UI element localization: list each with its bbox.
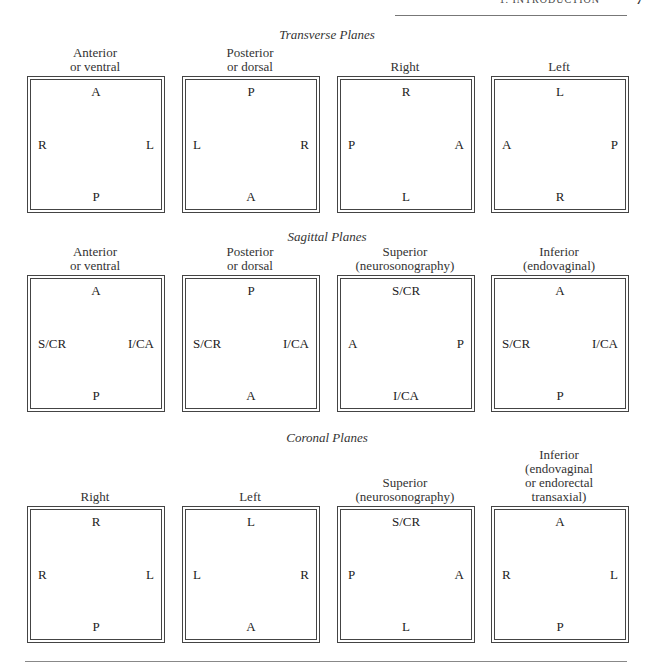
bottom-label: P	[31, 619, 161, 635]
top-label: A	[31, 283, 161, 299]
orientation-panel: P S/CR I/CA A	[185, 278, 317, 409]
panel-caption: Right	[15, 490, 175, 504]
bottom-label: P	[495, 619, 625, 635]
bottom-label: A	[186, 619, 316, 635]
left-label: S/CR	[193, 336, 221, 352]
bottom-label: I/CA	[341, 388, 471, 404]
caption-line: Posterior	[170, 46, 330, 60]
page-number: 7	[636, 0, 643, 8]
orientation-panel: S/CR P A L	[340, 509, 472, 640]
orientation-panel: R R L P	[30, 509, 162, 640]
bottom-label: A	[186, 388, 316, 404]
top-label: A	[495, 514, 625, 530]
panel-caption: Posterior or dorsal	[170, 46, 330, 74]
caption-line: (endovaginal)	[479, 259, 639, 273]
caption-line: transaxial)	[479, 490, 639, 504]
orientation-panel: A R L P	[494, 509, 626, 640]
caption-line: or dorsal	[170, 60, 330, 74]
panel-caption: Left	[170, 490, 330, 504]
right-label: L	[146, 137, 154, 153]
orientation-panel: A S/CR I/CA P	[494, 278, 626, 409]
top-label: R	[31, 514, 161, 530]
top-label: R	[341, 84, 471, 100]
section-title: Coronal Planes	[0, 430, 654, 446]
left-label: A	[502, 137, 511, 153]
orientation-panel: L L R A	[185, 509, 317, 640]
caption-line: Posterior	[170, 245, 330, 259]
right-label: L	[610, 567, 618, 583]
caption-line: Superior	[325, 476, 485, 490]
top-label: A	[495, 283, 625, 299]
caption-line: Left	[479, 60, 639, 74]
footer-rule	[25, 661, 627, 662]
top-label: P	[186, 84, 316, 100]
caption-line: Inferior	[479, 245, 639, 259]
caption-line: Right	[325, 60, 485, 74]
panel-caption: Anterior or ventral	[15, 245, 175, 273]
left-label: R	[38, 137, 47, 153]
orientation-panel: R P A L	[340, 79, 472, 210]
panel-caption: Left	[479, 60, 639, 74]
orientation-panel: A R L P	[30, 79, 162, 210]
panel-caption: Inferior (endovaginal)	[479, 245, 639, 273]
right-label: R	[300, 567, 309, 583]
left-label: A	[348, 336, 357, 352]
caption-line: or dorsal	[170, 259, 330, 273]
caption-line: or endorectal	[479, 476, 639, 490]
panel-caption: Inferior (endovaginal or endorectal tran…	[479, 448, 639, 504]
left-label: R	[502, 567, 511, 583]
caption-line: Anterior	[15, 46, 175, 60]
header-rule	[395, 15, 627, 16]
top-label: L	[495, 84, 625, 100]
right-label: A	[455, 567, 464, 583]
top-label: L	[186, 514, 316, 530]
right-label: I/CA	[128, 336, 154, 352]
bottom-label: L	[341, 619, 471, 635]
panel-caption: Superior (neurosonography)	[325, 245, 485, 273]
orientation-panel: P L R A	[185, 79, 317, 210]
orientation-panel: S/CR A P I/CA	[340, 278, 472, 409]
caption-line: Right	[15, 490, 175, 504]
right-label: L	[146, 567, 154, 583]
right-label: I/CA	[283, 336, 309, 352]
caption-line: or ventral	[15, 259, 175, 273]
panel-caption: Right	[325, 60, 485, 74]
caption-line: (neurosonography)	[325, 259, 485, 273]
caption-line: Superior	[325, 245, 485, 259]
top-label: S/CR	[341, 514, 471, 530]
right-label: P	[457, 336, 464, 352]
panel-caption: Superior (neurosonography)	[325, 476, 485, 504]
caption-line: (endovaginal	[479, 462, 639, 476]
right-label: P	[611, 137, 618, 153]
bottom-label: P	[31, 189, 161, 205]
panel-caption: Posterior or dorsal	[170, 245, 330, 273]
right-label: R	[300, 137, 309, 153]
panel-caption: Anterior or ventral	[15, 46, 175, 74]
top-label: P	[186, 283, 316, 299]
orientation-panel: A S/CR I/CA P	[30, 278, 162, 409]
left-label: P	[348, 137, 355, 153]
caption-line: or ventral	[15, 60, 175, 74]
left-label: L	[193, 137, 201, 153]
right-label: A	[455, 137, 464, 153]
bottom-label: L	[341, 189, 471, 205]
left-label: R	[38, 567, 47, 583]
top-label: A	[31, 84, 161, 100]
caption-line: Inferior	[479, 448, 639, 462]
bottom-label: P	[495, 388, 625, 404]
top-label: S/CR	[341, 283, 471, 299]
section-title: Sagittal Planes	[0, 229, 654, 245]
left-label: S/CR	[38, 336, 66, 352]
bottom-label: R	[495, 189, 625, 205]
caption-line: (neurosonography)	[325, 490, 485, 504]
bottom-label: A	[186, 189, 316, 205]
left-label: S/CR	[502, 336, 530, 352]
running-title: 1. INTRODUCTION	[420, 0, 600, 5]
left-label: P	[348, 567, 355, 583]
right-label: I/CA	[592, 336, 618, 352]
section-title: Transverse Planes	[0, 27, 654, 43]
left-label: L	[193, 567, 201, 583]
caption-line: Left	[170, 490, 330, 504]
orientation-panel: L A P R	[494, 79, 626, 210]
caption-line: Anterior	[15, 245, 175, 259]
